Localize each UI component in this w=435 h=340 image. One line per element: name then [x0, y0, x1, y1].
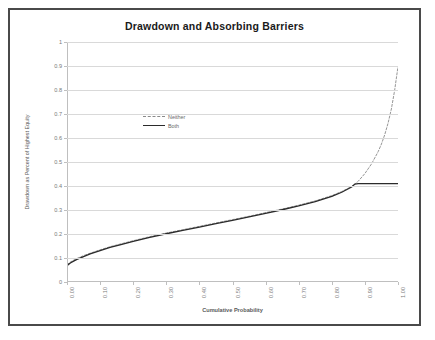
y-tick-label: 0.5	[54, 159, 62, 165]
legend-label-both: Both	[168, 123, 179, 129]
x-tick-mark	[266, 282, 267, 285]
x-tick-label: 0.00	[69, 287, 75, 298]
y-tick-label: 0.2	[54, 231, 62, 237]
y-tick-label: 0.6	[54, 135, 62, 141]
y-tick-mark	[64, 114, 67, 115]
x-tick-label: 0.80	[334, 287, 340, 298]
y-tick-mark	[64, 42, 67, 43]
gridline	[67, 138, 398, 139]
chart-title: Drawdown and Absorbing Barriers	[10, 20, 419, 32]
y-tick-label: 0.9	[54, 63, 62, 69]
gridline	[67, 210, 398, 211]
plot-area: 00.10.20.30.40.50.60.70.80.91 0.000.100.…	[67, 42, 398, 282]
gridline	[67, 258, 398, 259]
y-tick-label: 0.4	[54, 183, 62, 189]
y-tick-mark	[64, 90, 67, 91]
y-tick-label: 0.1	[54, 255, 62, 261]
legend-swatch-solid-icon	[143, 125, 165, 126]
x-tick-mark	[299, 282, 300, 285]
y-tick-mark	[64, 234, 67, 235]
chart-canvas: Drawdown and Absorbing Barriers Drawdown…	[10, 10, 419, 324]
gridline	[67, 42, 398, 43]
x-tick-mark	[398, 282, 399, 285]
x-tick-mark	[67, 282, 68, 285]
x-axis-label: Cumulative Probability	[67, 307, 398, 313]
x-tick-label: 0.50	[235, 287, 241, 298]
x-tick-label: 0.20	[135, 287, 141, 298]
gridline	[67, 186, 398, 187]
series-line-both	[67, 184, 398, 266]
y-tick-label: 0.8	[54, 87, 62, 93]
chart-frame: Drawdown and Absorbing Barriers Drawdown…	[8, 8, 421, 326]
gridline	[67, 162, 398, 163]
y-tick-mark	[64, 186, 67, 187]
x-tick-label: 0.40	[201, 287, 207, 298]
gridline	[67, 90, 398, 91]
x-tick-mark	[199, 282, 200, 285]
x-tick-label: 0.60	[268, 287, 274, 298]
chart-legend: Neither Both	[143, 112, 185, 130]
y-tick-mark	[64, 162, 67, 163]
y-tick-label: 0.7	[54, 111, 62, 117]
x-tick-label: 0.90	[367, 287, 373, 298]
x-tick-label: 0.70	[301, 287, 307, 298]
x-tick-mark	[100, 282, 101, 285]
y-tick-label: 0.3	[54, 207, 62, 213]
x-tick-label: 0.30	[168, 287, 174, 298]
y-axis-label: Drawdown as Percent of Highest Equity	[24, 115, 30, 210]
legend-item-neither: Neither	[143, 112, 185, 121]
y-tick-mark	[64, 210, 67, 211]
x-tick-label: 0.10	[102, 287, 108, 298]
legend-item-both: Both	[143, 121, 185, 130]
x-tick-mark	[332, 282, 333, 285]
x-tick-label: 1.00	[400, 287, 406, 298]
gridline	[67, 114, 398, 115]
legend-swatch-dashed-icon	[143, 116, 165, 117]
y-tick-mark	[64, 66, 67, 67]
x-tick-mark	[365, 282, 366, 285]
legend-label-neither: Neither	[168, 114, 185, 120]
gridline	[67, 234, 398, 235]
x-tick-mark	[133, 282, 134, 285]
y-tick-label: 1	[59, 39, 62, 45]
x-tick-mark	[166, 282, 167, 285]
gridline	[67, 66, 398, 67]
y-tick-mark	[64, 258, 67, 259]
x-tick-mark	[233, 282, 234, 285]
y-tick-mark	[64, 138, 67, 139]
y-tick-label: 0	[59, 279, 62, 285]
